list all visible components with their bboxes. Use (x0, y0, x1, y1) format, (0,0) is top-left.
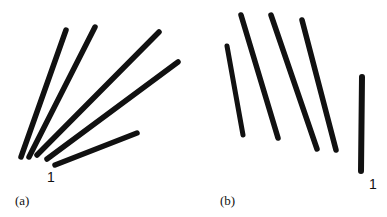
line-segment-b-1 (227, 46, 243, 135)
marker-label-a: 1 (47, 169, 55, 185)
line-segment-a-3 (37, 32, 159, 155)
figure-canvas: 1(a) 1(b) (0, 0, 387, 217)
line-segment-b-4 (302, 20, 336, 150)
panel-b: 1(b) (220, 15, 377, 208)
line-segment-b-2 (241, 15, 278, 138)
panel-caption-b: (b) (220, 193, 235, 208)
line-segment-b-5 (361, 77, 362, 171)
marker-label-b: 1 (369, 176, 377, 192)
panel-a: 1(a) (15, 27, 178, 208)
panel-caption-a: (a) (15, 193, 29, 208)
line-segment-a-5 (55, 133, 137, 165)
